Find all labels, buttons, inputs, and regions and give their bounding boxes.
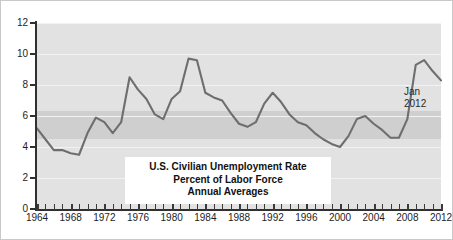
x-tick-1990 <box>256 204 257 210</box>
x-tick-2008 <box>407 204 409 211</box>
x-tick-1967 <box>62 204 63 210</box>
x-tick-1978 <box>155 204 156 210</box>
x-tick-1989 <box>247 204 248 210</box>
series-line <box>37 59 441 155</box>
x-tick-2010 <box>424 204 425 210</box>
chart-subtitle: Percent of Labor Force <box>129 174 327 187</box>
y-tick-2 <box>30 177 36 179</box>
x-tick-1974 <box>121 204 122 210</box>
unemployment-rate-chart: 024681012 196419681972197619801984198819… <box>0 0 453 240</box>
y-tick-8 <box>30 84 36 86</box>
x-tick-1996 <box>306 204 308 211</box>
x-tick-1968 <box>71 204 73 211</box>
x-tick-2011 <box>433 204 434 210</box>
x-tick-1983 <box>197 204 198 210</box>
y-tick-12 <box>30 22 36 24</box>
y-tick-label-4: 4 <box>4 142 28 152</box>
annotation-line-2: 2012 <box>404 98 426 110</box>
x-tick-1976 <box>138 204 140 211</box>
y-tick-6 <box>30 115 36 117</box>
chart-subtitle-2: Annual Averages <box>129 186 327 199</box>
y-tick-0 <box>30 208 36 210</box>
x-tick-1999 <box>332 204 333 210</box>
x-tick-1998 <box>323 204 324 210</box>
x-tick-1986 <box>222 204 223 210</box>
x-tick-2000 <box>340 204 342 211</box>
y-tick-label-6: 6 <box>4 111 28 121</box>
x-tick-1991 <box>264 204 265 210</box>
x-tick-1982 <box>189 204 190 210</box>
y-tick-label-12: 12 <box>4 18 28 28</box>
x-tick-2009 <box>416 204 417 210</box>
x-tick-1987 <box>231 204 232 210</box>
x-tick-1988 <box>239 204 241 211</box>
chart-title: U.S. Civilian Unemployment Rate <box>129 161 327 174</box>
x-tick-1979 <box>163 204 164 210</box>
x-tick-1985 <box>214 204 215 210</box>
x-tick-1977 <box>146 204 147 210</box>
x-tick-1964 <box>37 204 39 211</box>
x-tick-2002 <box>357 204 358 210</box>
x-tick-2007 <box>399 204 400 210</box>
x-tick-1992 <box>273 204 275 211</box>
x-tick-2005 <box>382 204 383 210</box>
x-tick-1993 <box>281 204 282 210</box>
y-tick-label-8: 8 <box>4 80 28 90</box>
x-tick-1997 <box>315 204 316 210</box>
x-tick-1969 <box>79 204 80 210</box>
x-tick-1970 <box>88 204 89 210</box>
x-tick-1984 <box>205 204 207 211</box>
x-tick-2004 <box>374 204 376 211</box>
x-tick-1965 <box>45 204 46 210</box>
annotation-line-1: Jan <box>404 86 426 98</box>
y-tick-10 <box>30 53 36 55</box>
x-tick-1966 <box>54 204 55 210</box>
x-tick-1972 <box>104 204 106 211</box>
x-tick-2012 <box>441 204 443 211</box>
x-tick-label-2012: 2012 <box>421 212 453 223</box>
x-tick-1980 <box>172 204 174 211</box>
chart-title-box: U.S. Civilian Unemployment Rate Percent … <box>125 157 331 204</box>
y-tick-label-2: 2 <box>4 173 28 183</box>
x-tick-1995 <box>298 204 299 210</box>
endpoint-annotation: Jan 2012 <box>404 86 426 109</box>
x-tick-1971 <box>96 204 97 210</box>
x-tick-2001 <box>348 204 349 210</box>
x-tick-2006 <box>391 204 392 210</box>
y-tick-label-10: 10 <box>4 49 28 59</box>
x-tick-1973 <box>113 204 114 210</box>
x-tick-1975 <box>130 204 131 210</box>
x-tick-1981 <box>180 204 181 210</box>
y-tick-4 <box>30 146 36 148</box>
x-tick-2003 <box>365 204 366 210</box>
x-tick-1994 <box>290 204 291 210</box>
